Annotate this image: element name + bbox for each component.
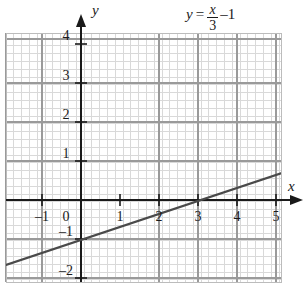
x-tick-label-4: 4 <box>229 209 245 225</box>
x-tick-label-0: 0 <box>58 209 74 225</box>
y-tick-label-4: 4 <box>58 28 74 44</box>
graph-canvas <box>0 0 306 300</box>
x-tick-label-1: 1 <box>112 209 128 225</box>
x-tick-label-3: 3 <box>190 209 206 225</box>
y-tick-label-2: 2 <box>58 107 74 123</box>
equation-constant-term: –1 <box>218 2 235 26</box>
x-tick-label-2: 2 <box>151 209 167 225</box>
x-tick-label-5: 5 <box>268 209 284 225</box>
equation-label: y = x 3 –1 <box>186 2 276 34</box>
fraction-numerator: x <box>210 4 216 17</box>
fraction-denominator: 3 <box>209 18 216 33</box>
x-tick-label-neg1: –1 <box>32 209 52 225</box>
y-tick-label-neg1: –1 <box>56 224 76 240</box>
y-tick-label-1: 1 <box>58 146 74 162</box>
coordinate-plane-figure: y = x 3 –1 y x –1 0 1 2 3 4 5 4 3 2 1 –1… <box>0 0 306 300</box>
minor-gridlines <box>6 33 281 282</box>
equation-equals-sign: = <box>193 2 207 26</box>
equation-fraction: x 3 <box>207 4 218 33</box>
y-axis-label: y <box>92 2 99 19</box>
y-tick-label-3: 3 <box>58 68 74 84</box>
y-tick-label-neg2: –2 <box>56 263 76 279</box>
equation-lhs: y <box>186 2 193 26</box>
x-axis-label: x <box>288 178 295 195</box>
